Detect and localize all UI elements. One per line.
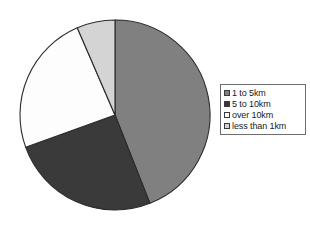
square-swatch-icon xyxy=(224,90,230,96)
legend-label: over 10km xyxy=(232,110,273,120)
legend-label: less than 1km xyxy=(232,121,286,131)
pie-chart-figure: 1 to 5km 5 to 10km over 10km less than 1… xyxy=(0,0,310,227)
chart-legend: 1 to 5km 5 to 10km over 10km less than 1… xyxy=(220,84,306,135)
legend-label: 5 to 10km xyxy=(232,99,271,109)
pie-svg xyxy=(19,19,211,211)
pie-plot-area xyxy=(19,19,211,211)
legend-item-5-to-10km[interactable]: 5 to 10km xyxy=(224,99,302,109)
square-swatch-icon xyxy=(224,101,230,107)
square-swatch-icon xyxy=(224,112,230,118)
legend-item-less-than-1km[interactable]: less than 1km xyxy=(224,121,302,131)
legend-label: 1 to 5km xyxy=(232,88,266,98)
legend-item-1-to-5km[interactable]: 1 to 5km xyxy=(224,88,302,98)
pie-slice-group xyxy=(20,20,210,210)
square-swatch-icon xyxy=(224,123,230,129)
legend-item-over-10km[interactable]: over 10km xyxy=(224,110,302,120)
